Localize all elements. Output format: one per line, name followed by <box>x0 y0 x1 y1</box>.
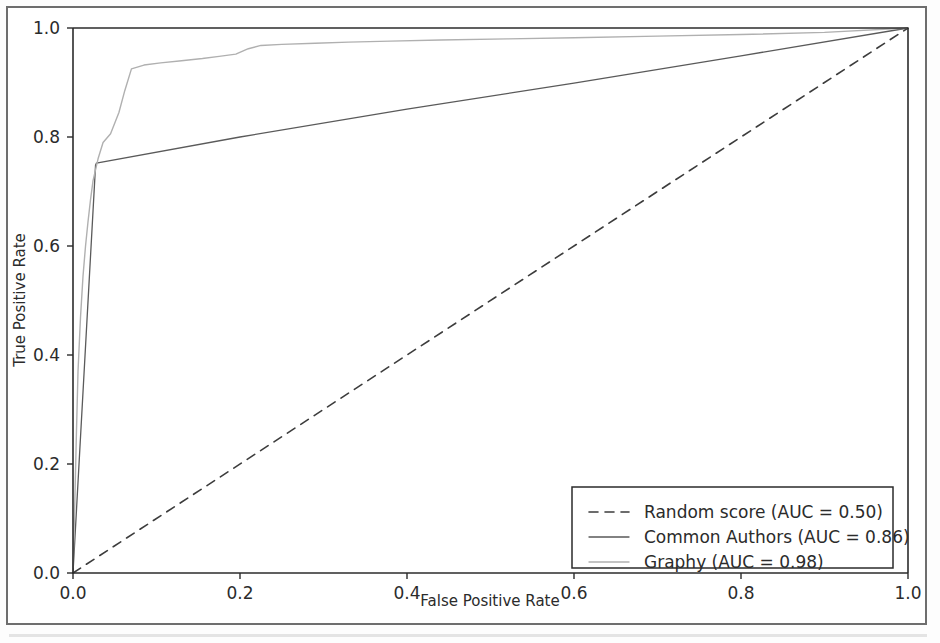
x-tick-label: 0.0 <box>59 583 86 603</box>
legend-entry-label: Random score (AUC = 0.50) <box>644 502 883 522</box>
y-tick-label: 0.8 <box>33 127 60 147</box>
x-axis-title: False Positive Rate <box>420 592 559 610</box>
y-tick-label: 0.0 <box>33 563 60 583</box>
y-tick-label: 1.0 <box>33 18 60 38</box>
roc-figure: 0.00.20.40.60.81.0 0.00.20.40.60.81.0 Fa… <box>0 0 940 643</box>
legend-entry-label: Graphy (AUC = 0.98) <box>644 552 824 572</box>
y-axis-ticks: 0.00.20.40.60.81.0 <box>33 18 73 583</box>
x-tick-label: 0.6 <box>560 583 587 603</box>
chart-legend: Random score (AUC = 0.50)Common Authors … <box>572 487 910 572</box>
legend-entry-label: Common Authors (AUC = 0.86) <box>644 527 910 547</box>
y-tick-label: 0.6 <box>33 236 60 256</box>
x-tick-label: 0.2 <box>226 583 253 603</box>
y-tick-label: 0.4 <box>33 345 60 365</box>
x-tick-label: 0.4 <box>393 583 420 603</box>
x-tick-label: 0.8 <box>727 583 754 603</box>
roc-chart: 0.00.20.40.60.81.0 0.00.20.40.60.81.0 Fa… <box>0 0 940 643</box>
y-axis-title: True Positive Rate <box>11 233 29 368</box>
y-tick-label: 0.2 <box>33 454 60 474</box>
x-tick-label: 1.0 <box>894 583 921 603</box>
